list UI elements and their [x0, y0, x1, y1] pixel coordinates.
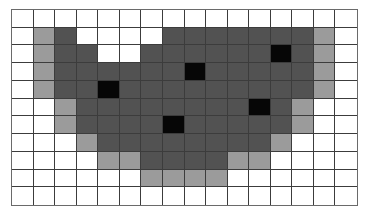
grid-cell-white — [77, 10, 99, 28]
grid-cell-white — [335, 134, 357, 152]
grid-cell-white — [55, 187, 77, 205]
grid-cell-white — [206, 187, 228, 205]
grid-cell-white — [185, 187, 207, 205]
grid-cell-white — [120, 45, 142, 63]
grid-cell-dark-gray — [271, 28, 293, 46]
grid-cell-light-gray — [228, 152, 250, 170]
grid-cell-dark-gray — [249, 134, 271, 152]
grid-cell-dark-gray — [185, 99, 207, 117]
grid-cell-dark-gray — [141, 116, 163, 134]
grid-cell-light-gray — [163, 170, 185, 188]
grid-cell-black — [271, 45, 293, 63]
grid-cell-white — [98, 28, 120, 46]
grid-cell-white — [12, 81, 34, 99]
grid-cell-white — [12, 99, 34, 117]
grid-cell-dark-gray — [228, 28, 250, 46]
grid-cell-white — [314, 152, 336, 170]
grid-cell-dark-gray — [206, 99, 228, 117]
grid-cell-white — [271, 10, 293, 28]
grid-cell-dark-gray — [206, 45, 228, 63]
grid-cell-white — [228, 170, 250, 188]
grid-cell-light-gray — [206, 170, 228, 188]
grid-cell-white — [314, 116, 336, 134]
grid-cell-white — [55, 10, 77, 28]
grid-cell-white — [314, 170, 336, 188]
grid-cell-dark-gray — [77, 63, 99, 81]
grid-cell-dark-gray — [206, 63, 228, 81]
grid-cell-dark-gray — [185, 134, 207, 152]
grid-cell-white — [12, 134, 34, 152]
grid-cell-white — [141, 10, 163, 28]
grid-cell-dark-gray — [271, 116, 293, 134]
grid-cell-light-gray — [292, 99, 314, 117]
grid-cell-white — [12, 170, 34, 188]
grid-cell-dark-gray — [249, 63, 271, 81]
grid-cell-light-gray — [314, 45, 336, 63]
grid-cell-white — [12, 28, 34, 46]
grid-cell-dark-gray — [206, 116, 228, 134]
grid-cell-light-gray — [271, 134, 293, 152]
grid-cell-white — [34, 116, 56, 134]
grid-cell-dark-gray — [185, 81, 207, 99]
grid-cell-white — [335, 170, 357, 188]
grid-cell-white — [12, 63, 34, 81]
grid-cell-white — [120, 187, 142, 205]
figure-canvas — [0, 0, 365, 215]
pixel-grid — [11, 9, 358, 206]
grid-cell-dark-gray — [271, 81, 293, 99]
grid-cell-white — [120, 10, 142, 28]
grid-cell-dark-gray — [185, 28, 207, 46]
grid-cell-dark-gray — [98, 63, 120, 81]
grid-cell-white — [249, 187, 271, 205]
grid-cell-dark-gray — [249, 28, 271, 46]
grid-cell-dark-gray — [249, 45, 271, 63]
grid-cell-white — [77, 187, 99, 205]
grid-cell-dark-gray — [163, 152, 185, 170]
grid-cell-white — [292, 187, 314, 205]
grid-cell-white — [292, 134, 314, 152]
grid-cell-dark-gray — [206, 134, 228, 152]
grid-cell-white — [120, 170, 142, 188]
grid-cell-white — [12, 10, 34, 28]
grid-cell-dark-gray — [141, 45, 163, 63]
grid-cell-dark-gray — [163, 99, 185, 117]
grid-cell-white — [335, 63, 357, 81]
grid-cell-light-gray — [314, 81, 336, 99]
grid-cell-white — [163, 10, 185, 28]
grid-cell-light-gray — [98, 152, 120, 170]
grid-cell-white — [228, 10, 250, 28]
grid-cell-white — [98, 170, 120, 188]
grid-cell-white — [34, 152, 56, 170]
grid-cell-dark-gray — [120, 63, 142, 81]
grid-cell-white — [292, 170, 314, 188]
grid-cell-light-gray — [55, 116, 77, 134]
grid-cell-dark-gray — [98, 116, 120, 134]
grid-cell-white — [335, 152, 357, 170]
grid-cell-black — [249, 99, 271, 117]
grid-cell-white — [141, 28, 163, 46]
grid-cell-dark-gray — [163, 134, 185, 152]
grid-cell-white — [292, 10, 314, 28]
grid-cell-dark-gray — [228, 81, 250, 99]
grid-cell-dark-gray — [292, 28, 314, 46]
grid-cell-dark-gray — [120, 134, 142, 152]
grid-cell-dark-gray — [206, 152, 228, 170]
grid-cell-white — [141, 187, 163, 205]
grid-cell-white — [98, 187, 120, 205]
grid-cell-white — [314, 99, 336, 117]
grid-cell-dark-gray — [141, 63, 163, 81]
grid-cell-light-gray — [292, 116, 314, 134]
grid-cell-white — [34, 170, 56, 188]
grid-cell-light-gray — [77, 134, 99, 152]
grid-cell-dark-gray — [77, 45, 99, 63]
grid-cell-dark-gray — [185, 152, 207, 170]
grid-cell-dark-gray — [55, 63, 77, 81]
grid-cell-dark-gray — [271, 99, 293, 117]
grid-cell-dark-gray — [55, 28, 77, 46]
grid-cell-white — [55, 170, 77, 188]
grid-cell-white — [292, 152, 314, 170]
grid-cell-dark-gray — [55, 45, 77, 63]
grid-cell-light-gray — [34, 28, 56, 46]
grid-cell-white — [271, 170, 293, 188]
grid-cell-dark-gray — [141, 152, 163, 170]
